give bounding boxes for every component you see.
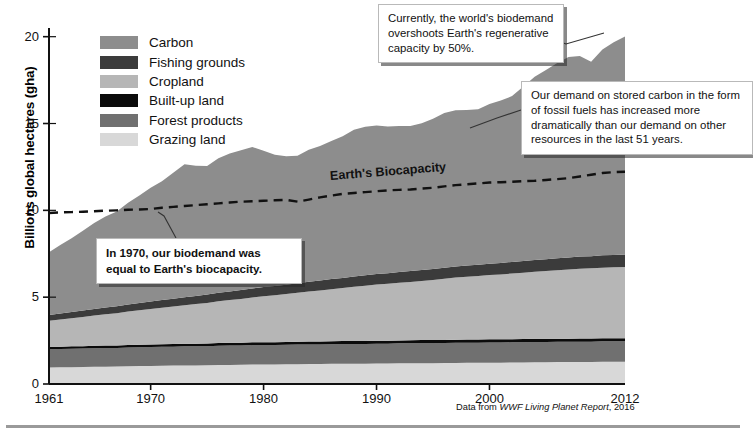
legend-item-carbon: Carbon [100,33,245,52]
callout-1970-text: In 1970, our biodemand was equal to Eart… [106,245,292,276]
y-tick-label: 15 [13,116,39,131]
chart-legend: CarbonFishing groundsCroplandBuilt-up la… [100,33,245,149]
legend-label: Forest products [149,113,243,128]
legend-label: Fishing grounds [149,55,245,70]
legend-item-forest-products: Forest products [100,111,245,130]
source-prefix: Data from [456,402,499,412]
legend-swatch-icon [100,114,138,127]
x-tick-label: 1970 [124,391,178,406]
legend-swatch-icon [100,56,138,69]
legend-item-grazing-land: Grazing land [100,130,245,149]
source-note: Data from WWF Living Planet Report, 2016 [456,402,635,412]
callout-carbon-text: Our demand on stored carbon in the form … [531,88,743,147]
source-title: WWF Living Planet Report [499,402,608,412]
x-tick-label: 1961 [22,391,76,406]
callout-carbon: Our demand on stored carbon in the form … [521,81,753,155]
callout-1970: In 1970, our biodemand was equal to Eart… [96,238,302,284]
y-tick-label: 20 [13,29,39,44]
y-tick-label: 5 [13,289,39,304]
legend-label: Cropland [149,74,204,89]
y-axis-label: Billions global hectares (gha) [22,33,37,283]
legend-swatch-icon [100,133,138,146]
legend-item-fishing-grounds: Fishing grounds [100,52,245,71]
legend-swatch-icon [100,94,138,107]
legend-swatch-icon [100,75,138,88]
legend-item-built-up-land: Built-up land [100,91,245,110]
callout-overshoot-text: Currently, the world's biodemand oversho… [388,11,554,55]
callout-overshoot: Currently, the world's biodemand oversho… [378,4,564,63]
legend-label: Built-up land [149,93,224,108]
x-tick-label: 1990 [350,391,404,406]
legend-label: Carbon [149,35,193,50]
legend-label: Grazing land [149,132,226,147]
legend-swatch-icon [100,36,138,49]
y-tick-label: 10 [13,202,39,217]
x-tick-label: 1980 [237,391,291,406]
bottom-rule [6,425,740,428]
legend-item-cropland: Cropland [100,72,245,91]
y-tick-label: 0 [13,376,39,391]
source-suffix: , 2016 [609,402,635,412]
